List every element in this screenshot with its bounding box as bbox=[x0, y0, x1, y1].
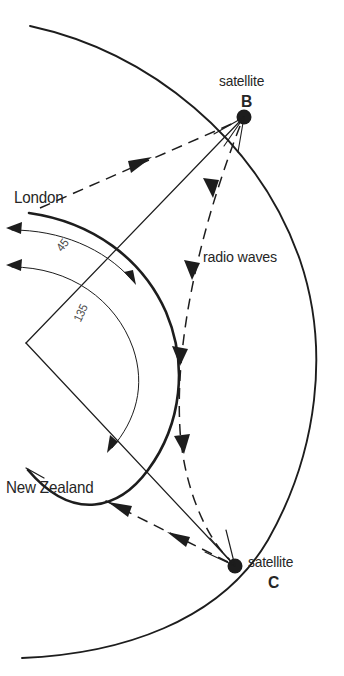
radio-wave-c-to-nz-arrow-1 bbox=[108, 502, 132, 517]
radius-line-to-satellite-c bbox=[26, 343, 235, 566]
satellite-relay-figure bbox=[0, 0, 344, 676]
satellite-c-caption: satellite bbox=[248, 553, 293, 570]
satellite-b-code: B bbox=[241, 92, 252, 112]
radio-wave-b-to-c-arrow-2 bbox=[184, 260, 200, 280]
angle-arc-135 bbox=[12, 267, 139, 448]
radio-wave-b-to-c-arrow-3 bbox=[172, 346, 188, 366]
angle-arc-45 bbox=[12, 230, 132, 280]
radio-waves-label: radio waves bbox=[203, 248, 277, 266]
radio-wave-c-to-nz-arrow-2 bbox=[167, 532, 190, 547]
diagram-canvas: satellite B satellite C London New Zeala… bbox=[0, 0, 344, 676]
angle-arc-135-arrow-end bbox=[107, 435, 118, 453]
radio-wave-london-to-b-arrow bbox=[128, 157, 152, 173]
satellite-b-caption: satellite bbox=[219, 72, 264, 89]
satellite-c-code: C bbox=[268, 573, 279, 593]
london-label: London bbox=[14, 188, 64, 207]
angle-arc-45-arrow-end bbox=[124, 270, 136, 285]
new-zealand-label: New Zealand bbox=[6, 478, 93, 497]
radius-line-to-satellite-b bbox=[26, 117, 244, 343]
angle-arc-135-arrow-start bbox=[6, 259, 22, 271]
angle-arc-45-arrow-start bbox=[6, 222, 22, 234]
earth-surface-arc bbox=[28, 213, 179, 505]
